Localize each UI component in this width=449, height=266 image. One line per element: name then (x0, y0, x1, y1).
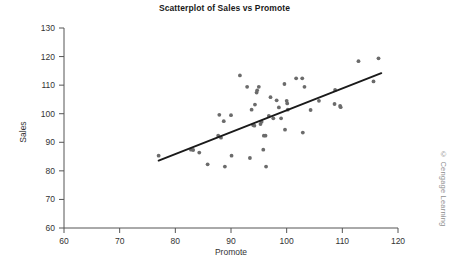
data-point (283, 82, 287, 86)
data-point (222, 119, 226, 123)
data-point (372, 80, 376, 84)
data-point (277, 106, 281, 110)
data-point (217, 113, 221, 117)
x-axis-ticks: 60708090100110120 (59, 228, 405, 246)
scatterplot-figure: Scatterplot of Sales vs Promote 60708090… (0, 0, 449, 266)
data-point (255, 88, 259, 92)
data-point (250, 108, 254, 112)
data-point (230, 154, 234, 158)
data-point (333, 102, 337, 106)
data-point (206, 162, 210, 166)
y-tick-label: 120 (41, 52, 55, 62)
y-axis-ticks: 60708090100110120130 (41, 23, 64, 233)
x-tick-label: 110 (336, 236, 350, 246)
copyright-credit: © Cengage Learning (439, 150, 448, 226)
y-tick-label: 80 (46, 166, 56, 176)
trend-line (159, 73, 382, 160)
y-tick-label: 60 (46, 223, 56, 233)
data-point (257, 85, 261, 89)
x-tick-label: 60 (59, 236, 69, 246)
plot-svg: 60708090100110120130 60708090100110120 S… (0, 0, 449, 266)
y-tick-label: 110 (41, 80, 55, 90)
data-point (377, 56, 381, 60)
data-point (317, 99, 321, 103)
data-point (357, 59, 361, 63)
x-tick-label: 80 (171, 236, 181, 246)
axes-group (64, 28, 398, 228)
x-tick-label: 120 (391, 236, 405, 246)
trend-line-group (159, 73, 382, 160)
data-point (261, 148, 265, 152)
data-point (245, 85, 249, 89)
x-tick-label: 70 (115, 236, 125, 246)
x-tick-label: 100 (280, 236, 294, 246)
data-point (248, 156, 252, 160)
y-tick-label: 130 (41, 23, 55, 33)
data-point (229, 113, 233, 117)
data-point (339, 105, 343, 109)
data-point (301, 131, 305, 135)
data-point (285, 102, 289, 106)
data-point (275, 98, 279, 102)
data-point (279, 116, 283, 120)
y-tick-label: 90 (46, 137, 56, 147)
x-axis-title: Promote (215, 247, 247, 257)
y-tick-label: 100 (41, 109, 55, 119)
y-tick-label: 70 (46, 194, 56, 204)
x-tick-label: 90 (226, 236, 236, 246)
data-point (191, 148, 195, 152)
data-points-group (157, 56, 381, 168)
data-point (253, 103, 257, 107)
data-point (303, 85, 307, 89)
data-point (283, 128, 287, 132)
data-point (300, 76, 304, 80)
data-point (238, 74, 242, 78)
data-point (223, 165, 227, 169)
data-point (309, 108, 313, 112)
data-point (264, 134, 268, 138)
data-point (269, 95, 273, 99)
y-axis-title: Sales (18, 121, 28, 142)
data-point (294, 76, 298, 80)
data-point (157, 154, 161, 158)
data-point (197, 151, 201, 155)
data-point (264, 165, 268, 169)
